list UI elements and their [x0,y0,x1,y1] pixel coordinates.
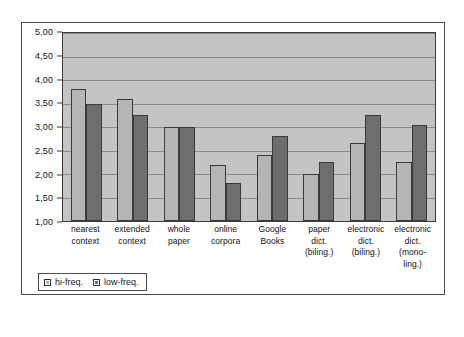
bar-series-container [63,33,435,221]
bar-group [63,33,110,221]
bar-hi-freq [164,127,179,221]
chart-figure: 5,004,504,003,503,002,502,001,501,00 nea… [21,22,445,295]
legend-swatch-icon [44,279,51,286]
x-axis-category-label: GoogleBooks [249,224,296,270]
x-axis-category-label: onlinecorpora [202,224,249,270]
plot-wrapper: 5,004,504,003,503,002,502,001,501,00 [62,32,436,222]
legend-swatch-icon [93,279,100,286]
y-axis-tick-label: 3,00 [35,122,53,132]
bar-low-freq [412,125,427,221]
bar-group [110,33,157,221]
chart-legend: hi-freq. low-freq. [38,273,147,291]
y-axis-tick-label: 4,00 [35,75,53,85]
y-axis-tick-label: 4,50 [35,51,53,61]
y-axis-tick-label: 3,50 [35,98,53,108]
y-axis-tick-label: 5,00 [35,27,53,37]
plot-area [62,32,436,222]
bar-low-freq [86,104,101,222]
bar-low-freq [272,136,287,221]
legend-item-hi-freq: hi-freq. [44,277,83,287]
bar-hi-freq [396,162,411,221]
y-axis-tick-label: 1,00 [35,217,53,227]
bar-hi-freq [71,89,86,221]
legend-item-low-freq: low-freq. [93,277,139,287]
bar-group [156,33,203,221]
bar-low-freq [133,115,148,221]
x-axis-category-label: extendedcontext [109,224,156,270]
bar-hi-freq [350,143,365,221]
y-axis: 5,004,504,003,503,002,502,001,501,00 [22,32,62,222]
legend-label: low-freq. [104,277,139,287]
bar-group [342,33,389,221]
x-axis-labels: nearestcontextextendedcontextwholepapero… [62,224,436,270]
x-axis-category-label: electronicdict.(mono-ling.) [389,224,436,270]
bar-group [249,33,296,221]
bar-hi-freq [117,99,132,221]
bar-low-freq [365,115,380,221]
bar-hi-freq [303,174,318,221]
bar-group [203,33,250,221]
legend-label: hi-freq. [55,277,83,287]
bar-low-freq [319,162,334,221]
bar-group [389,33,436,221]
x-axis-category-label: wholepaper [156,224,203,270]
y-axis-tick-label: 2,00 [35,170,53,180]
bar-low-freq [226,183,241,221]
bar-hi-freq [210,165,225,221]
y-axis-tick-label: 1,50 [35,193,53,203]
y-axis-tick-label: 2,50 [35,146,53,156]
x-axis-category-label: nearestcontext [62,224,109,270]
bar-group [296,33,343,221]
bar-low-freq [179,127,194,221]
x-axis-category-label: paperdict.(biling.) [296,224,343,270]
x-axis-category-label: electronicdict.(biling.) [343,224,390,270]
bar-hi-freq [257,155,272,221]
